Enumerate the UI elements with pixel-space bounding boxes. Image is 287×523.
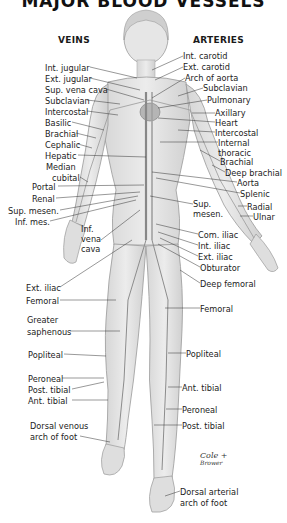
- heart: [140, 103, 160, 121]
- artery-label: Internal: [218, 138, 250, 148]
- vein-label: Dorsal venous: [30, 421, 88, 431]
- vein-label: Renal: [32, 194, 55, 204]
- artery-label: Deep femoral: [200, 279, 256, 289]
- vein-label: Greater: [27, 315, 58, 325]
- vein-label: saphenous: [27, 327, 71, 337]
- vein-label: Ext. iliac: [26, 283, 61, 293]
- vein-label: Sup. mesen.: [8, 206, 59, 216]
- vein-label: Cephalic: [45, 140, 80, 150]
- artery-label: Dorsal arterial: [180, 487, 238, 497]
- artery-label: Ext. iliac: [198, 252, 233, 262]
- vein-label: arch of foot: [30, 432, 77, 442]
- artery-label: arch of foot: [180, 498, 227, 508]
- vein-label: Sup. vena cava: [45, 85, 108, 95]
- artery-label: Int. iliac: [198, 241, 230, 251]
- artery-label: mesen.: [193, 209, 223, 219]
- vein-label: Median: [46, 162, 76, 172]
- vein-label: Peroneal: [28, 374, 63, 384]
- artery-label: Femoral: [200, 304, 233, 314]
- signature-line-1: Cole +: [200, 452, 227, 459]
- artery-label: Peroneal: [182, 405, 217, 415]
- vein-label: vena: [81, 234, 101, 244]
- vein-label: Ant. tibial: [28, 396, 67, 406]
- vein-label: Hepatic: [45, 151, 76, 161]
- artist-signature: Cole + Brower: [200, 452, 227, 466]
- vein-label: cubital: [52, 173, 80, 183]
- vein-label: Femoral: [26, 296, 59, 306]
- vein-label: Inf.: [81, 224, 94, 234]
- vein-label: Inf. mes.: [15, 217, 50, 227]
- arteries-heading: ARTERIES: [193, 35, 244, 45]
- artery-label: Brachial: [220, 157, 253, 167]
- vein-label: Basilic: [45, 118, 71, 128]
- artery-label: Subclavian: [203, 83, 248, 93]
- artery-label: Aorta: [237, 178, 259, 188]
- vein-label: Subclavian: [45, 96, 90, 106]
- vein-label: Portal: [32, 182, 56, 192]
- vein-label: Ext. jugular: [45, 74, 92, 84]
- vein-label: Int. jugular: [45, 63, 90, 73]
- artery-label: Ant. tibial: [182, 383, 221, 393]
- artery-label: Splenic: [240, 189, 270, 199]
- artery-label: Heart: [215, 118, 238, 128]
- signature-line-2: Brower: [200, 459, 227, 466]
- artery-label: Int. carotid: [183, 51, 227, 61]
- human-figure-illustration: [0, 0, 287, 523]
- veins-heading: VEINS: [58, 35, 90, 45]
- artery-label: Deep brachial: [225, 168, 282, 178]
- artery-label: Obturator: [200, 263, 240, 273]
- artery-label: Com. iliac: [198, 230, 238, 240]
- vein-label: cava: [81, 244, 100, 254]
- artery-label: Axillary: [215, 108, 246, 118]
- vein-label: Post. tibial: [28, 385, 71, 395]
- vein-label: Brachial: [45, 129, 78, 139]
- artery-label: Sup.: [193, 199, 211, 209]
- artery-label: Intercostal: [215, 128, 258, 138]
- vein-label: Intercostal: [45, 107, 88, 117]
- artery-label: Arch of aorta: [185, 73, 238, 83]
- artery-label: Radial: [247, 202, 272, 212]
- artery-label: Popliteal: [186, 349, 221, 359]
- vein-label: Popliteal: [28, 350, 63, 360]
- artery-label: Pulmonary: [207, 95, 251, 105]
- artery-label: Ulnar: [253, 212, 275, 222]
- artery-label: Ext. carotid: [183, 62, 230, 72]
- artery-label: Post. tibial: [182, 421, 225, 431]
